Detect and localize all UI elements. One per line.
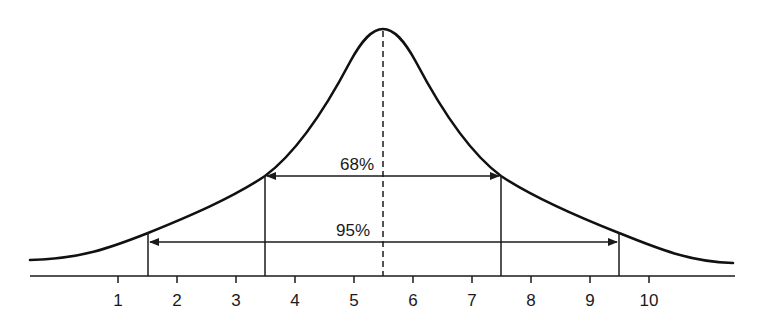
tick-label-9: 9 bbox=[585, 291, 594, 310]
tick-label-3: 3 bbox=[231, 291, 240, 310]
x-axis-tick-labels: 1 2 3 4 5 6 7 8 9 10 bbox=[113, 291, 658, 310]
x-axis-ticks bbox=[118, 276, 649, 283]
tick-label-5: 5 bbox=[349, 291, 358, 310]
interval-95-label: 95% bbox=[336, 221, 370, 240]
tick-label-4: 4 bbox=[290, 291, 299, 310]
tick-label-10: 10 bbox=[640, 291, 659, 310]
tick-label-8: 8 bbox=[526, 291, 535, 310]
tick-label-6: 6 bbox=[408, 291, 417, 310]
interval-68-label: 68% bbox=[340, 155, 374, 174]
tick-label-1: 1 bbox=[113, 291, 122, 310]
tick-label-2: 2 bbox=[172, 291, 181, 310]
tick-label-7: 7 bbox=[467, 291, 476, 310]
normal-distribution-diagram: 1 2 3 4 5 6 7 8 9 10 68% 95% bbox=[0, 0, 757, 333]
bell-curve bbox=[30, 29, 733, 263]
